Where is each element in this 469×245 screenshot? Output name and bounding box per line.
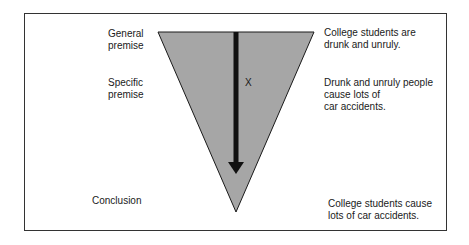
statement-specific: Drunk and unruly people cause lots of ca… (324, 77, 433, 113)
label-conclusion: Conclusion (92, 195, 141, 207)
arrow-shaft (234, 32, 239, 165)
statement-general: College students are drunk and unruly. (324, 27, 416, 51)
statement-conclusion: College students cause lots of car accid… (328, 198, 432, 222)
label-specific-premise: Specific premise (108, 77, 144, 101)
center-marker-x: X (245, 77, 252, 89)
label-general-premise: General premise (108, 28, 144, 52)
